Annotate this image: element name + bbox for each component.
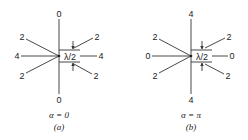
bottom-label: 4 <box>188 95 193 105</box>
upper-left-label: 2 <box>152 32 157 42</box>
lower-left-label: 2 <box>19 71 24 81</box>
lower-right-label: 2 <box>225 71 230 81</box>
upper-left-ray <box>26 39 59 56</box>
element-point <box>58 55 61 58</box>
lower-left-ray <box>26 56 59 73</box>
lower-left-ray <box>159 56 191 73</box>
panel-a: 0 0 4 4 2 2 2 2 λ/2 α = 0 (a) <box>14 9 103 132</box>
top-label: 4 <box>188 9 193 19</box>
element-point <box>190 55 193 58</box>
lower-right-ray <box>205 64 224 74</box>
top-label: 0 <box>56 9 61 19</box>
spacing-label: λ/2 <box>196 52 208 62</box>
lower-left-label: 2 <box>152 71 157 81</box>
upper-left-ray <box>159 39 191 56</box>
condition-label: α = 0 <box>49 110 69 120</box>
panel-caption: (a) <box>54 122 65 132</box>
panel-b: 4 4 0 0 2 2 2 2 λ/2 α = π (b) <box>145 9 234 132</box>
right-label: 0 <box>229 51 234 61</box>
panel-caption: (b) <box>186 122 197 132</box>
condition-label: α = π <box>181 110 201 120</box>
upper-right-label: 2 <box>226 32 231 42</box>
left-label: 4 <box>14 51 19 61</box>
lower-right-label: 2 <box>93 71 98 81</box>
upper-left-label: 2 <box>19 32 24 42</box>
radiation-pattern-diagram: 0 0 4 4 2 2 2 2 λ/2 α = 0 (a) 4 4 0 0 2 … <box>0 0 248 140</box>
bottom-label: 0 <box>56 95 61 105</box>
right-label: 4 <box>98 51 103 61</box>
left-label: 0 <box>145 51 150 61</box>
spacing-label: λ/2 <box>64 52 76 62</box>
upper-right-ray <box>205 38 225 48</box>
upper-right-label: 2 <box>94 32 99 42</box>
upper-right-ray <box>74 38 93 48</box>
lower-right-ray <box>74 64 92 74</box>
